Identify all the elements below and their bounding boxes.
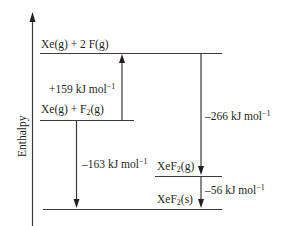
arrowhead-down-icon bbox=[74, 199, 80, 208]
level-line-xef2-s bbox=[43, 209, 222, 210]
level-line-xe-2f bbox=[40, 53, 222, 54]
level-line-xe-f2 bbox=[40, 120, 134, 121]
enthalpy-change-plus159: +159 kJ mol−1 bbox=[49, 83, 115, 96]
axis-arrowhead-icon bbox=[30, 12, 36, 22]
level-label-xe-2f: Xe(g) + 2 F(g) bbox=[41, 39, 108, 51]
arrowhead-down-icon bbox=[198, 166, 204, 175]
enthalpy-change-minus56: –56 kJ mol−1 bbox=[205, 184, 265, 197]
enthalpy-change-minus266: –266 kJ mol−1 bbox=[205, 110, 270, 123]
level-line-xef2-g bbox=[155, 176, 222, 177]
level-label-xe-f2: Xe(g) + F2(g) bbox=[41, 104, 104, 117]
arrowhead-up-icon bbox=[119, 54, 125, 63]
enthalpy-change-minus163: –163 kJ mol−1 bbox=[82, 158, 147, 171]
arrowhead-down-icon bbox=[198, 199, 204, 208]
level-label-xef2-g: XeF2(g) bbox=[157, 161, 194, 174]
level-label-xef2-s: XeF2(s) bbox=[157, 194, 193, 207]
y-axis-label: Enthalpy bbox=[16, 115, 28, 157]
